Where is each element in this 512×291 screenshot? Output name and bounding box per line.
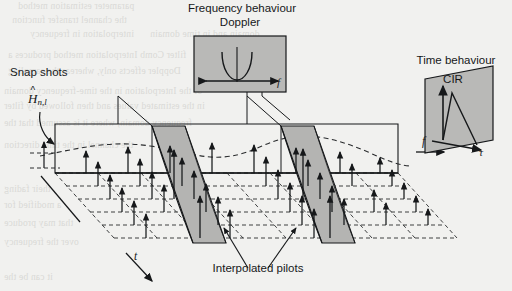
figure-page: parameter estimation method the channel … (0, 0, 512, 291)
h-estimate-label: ^ Hn,l (28, 92, 47, 107)
interpolated-pilots-label: Interpolated pilots (195, 262, 321, 275)
doppler-slice-plane-1 (152, 126, 226, 243)
h-subscript: n,l (37, 97, 46, 107)
snapshot-connector-lines (118, 86, 290, 173)
time-frequency-floor-grid (55, 173, 457, 238)
cir-tau-axis-label: τ (479, 146, 483, 158)
doppler-f-axis-label: f (277, 76, 280, 88)
hat-accent: ^ (31, 85, 36, 96)
back-wall-panel (55, 124, 398, 173)
snap-shots-label: Snap shots (10, 66, 68, 79)
time-axis-label: t (134, 250, 137, 263)
time-axis-arrow (126, 253, 152, 281)
doppler-panel (194, 36, 286, 92)
diagram-canvas (0, 0, 512, 291)
channel-estimate-arrows (86, 143, 428, 238)
doppler-panel-title-line1: Frequency behaviour (188, 2, 292, 15)
doppler-panel-title-line2: Doppler (188, 16, 292, 29)
fading-envelope-curve (40, 136, 412, 166)
floor-left-edge (41, 176, 80, 222)
cir-panel-title: Time behaviour (400, 54, 512, 67)
frequency-axis-label: f (422, 135, 425, 148)
cir-panel-subtitle: CIR (408, 73, 498, 86)
